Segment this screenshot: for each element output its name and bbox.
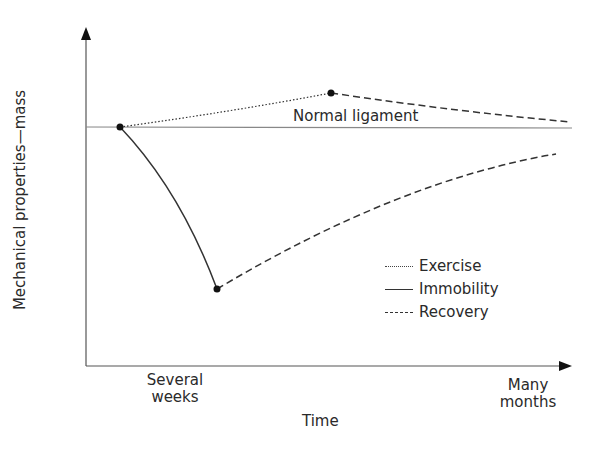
normal-ligament-label: Normal ligament (293, 108, 418, 125)
immobility-curve (120, 127, 217, 289)
normal-ligament-line (86, 127, 572, 128)
x-axis-label: Time (302, 413, 339, 430)
immobility-trough-point (214, 286, 221, 293)
x-tick-several: Several (135, 372, 215, 389)
dotted-line-icon (385, 266, 413, 267)
legend-item-recovery: Recovery (385, 302, 489, 322)
x-axis-arrow-icon (559, 361, 572, 371)
legend-item-immobility: Immobility (385, 279, 499, 299)
x-tick-many: Many (488, 377, 568, 394)
legend-label-recovery: Recovery (419, 303, 489, 321)
y-axis-label: Mechanical properties—mass (11, 90, 29, 310)
legend-item-exercise: Exercise (385, 256, 481, 276)
legend-label-immobility: Immobility (419, 280, 499, 298)
x-tick-weeks: weeks (135, 389, 215, 406)
y-axis-arrow-icon (81, 27, 91, 40)
dashed-line-icon (385, 312, 413, 313)
legend-label-exercise: Exercise (419, 257, 481, 275)
x-tick-several-weeks: Several weeks (135, 372, 215, 406)
solid-line-icon (385, 289, 413, 290)
x-tick-many-months: Many months (488, 377, 568, 411)
start-point (117, 124, 124, 131)
exercise-peak-point (328, 90, 335, 97)
x-tick-months: months (488, 394, 568, 411)
